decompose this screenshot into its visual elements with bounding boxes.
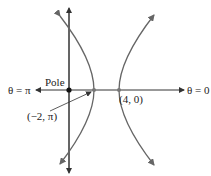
pole-point xyxy=(66,87,71,92)
vertex-right-point xyxy=(117,88,121,92)
hyperbola-right-branch xyxy=(119,15,154,90)
theta-zero-label: θ = 0 xyxy=(187,85,209,96)
diagram-canvas xyxy=(0,0,211,176)
theta-pi-label: θ = π xyxy=(8,85,31,96)
pole-label: Pole xyxy=(45,77,65,88)
vertex-right-label: (4, 0) xyxy=(119,94,143,105)
vertex-left-label: (−2, π) xyxy=(27,111,57,122)
vertex-left-point xyxy=(92,88,96,92)
hyperbola-left-branch xyxy=(60,16,94,90)
vertex-left-pointer xyxy=(50,92,91,111)
